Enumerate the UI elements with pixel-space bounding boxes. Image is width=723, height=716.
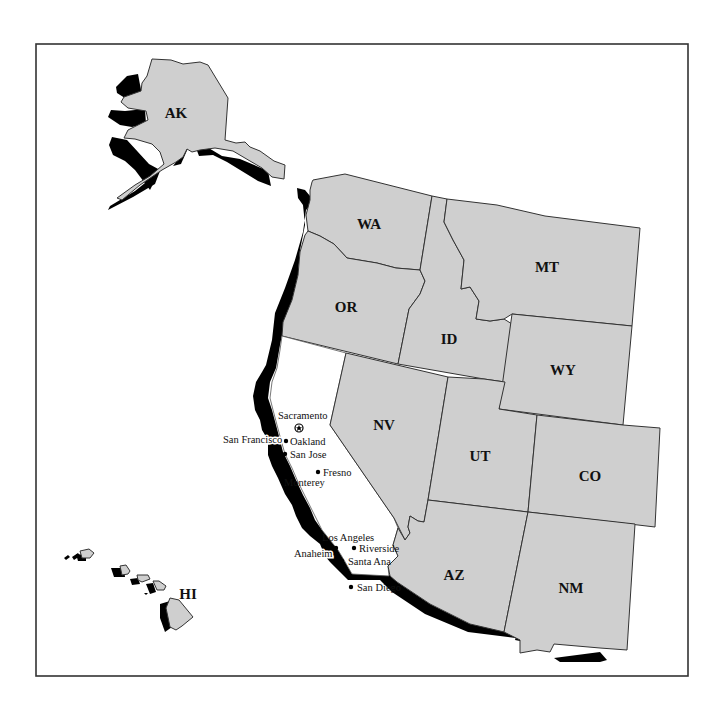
city-dot-fresno	[316, 470, 320, 474]
state-label-ak: AK	[165, 105, 188, 121]
state-label-co: CO	[579, 468, 602, 484]
state-label-mt: MT	[535, 259, 559, 275]
city-label-san-diego: San Diego	[357, 582, 401, 593]
state-label-az: AZ	[444, 567, 465, 583]
city-dot-oakland	[284, 439, 288, 443]
city-dot-san-diego	[349, 585, 353, 589]
state-label-or: OR	[335, 299, 358, 315]
state-label-wa: WA	[357, 216, 381, 232]
city-label-anaheim: Anaheim	[294, 548, 333, 559]
state-label-wy: WY	[550, 362, 576, 378]
city-label-oakland: Oakland	[290, 436, 326, 447]
state-arizona: AZ	[388, 500, 528, 632]
state-wyoming: WY	[499, 314, 632, 425]
state-hawaii: HI	[64, 549, 197, 632]
state-label-nv: NV	[373, 417, 395, 433]
state-alaska: AK	[108, 59, 285, 210]
state-colorado: CO	[528, 415, 660, 527]
city-dot-san-jose	[283, 452, 287, 456]
city-dot-santa-ana	[340, 559, 344, 563]
state-label-id: ID	[441, 331, 458, 347]
city-dot-riverside	[352, 546, 356, 550]
city-label-sacramento: Sacramento	[278, 410, 328, 421]
city-dot-los-angeles	[334, 546, 338, 550]
city-label-san-francisco: San Francisco	[223, 434, 282, 445]
city-label-santa-ana: Santa Ana	[348, 556, 391, 567]
state-label-ut: UT	[470, 448, 491, 464]
city-label-monterey: Monterey	[284, 477, 326, 488]
city-label-riverside: Riverside	[359, 543, 400, 554]
state-new-mexico: NM	[504, 512, 635, 653]
city-label-fresno: Fresno	[323, 467, 352, 478]
western-us-map: AK WA OR ID MT WY NV UT	[0, 0, 723, 716]
city-label-los-angeles: Los Angeles	[322, 532, 374, 543]
state-label-hi: HI	[179, 586, 197, 602]
star-in-circle-icon	[295, 424, 303, 432]
state-label-nm: NM	[559, 580, 584, 596]
city-label-san-jose: San Jose	[290, 449, 327, 460]
